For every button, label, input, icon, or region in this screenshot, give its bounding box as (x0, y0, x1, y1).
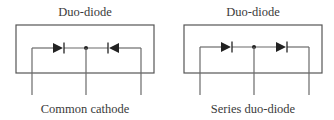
panel-title: Duo-diode (226, 5, 280, 19)
diode-icon (276, 42, 287, 53)
diode-icon (108, 43, 119, 54)
panel-title: Duo-diode (58, 5, 112, 19)
diode-icon (53, 43, 64, 54)
panel-caption: Series duo-diode (211, 102, 296, 116)
panel-caption: Common cathode (41, 102, 130, 116)
package-outline (184, 25, 322, 73)
diode-icon (221, 42, 232, 53)
panel-common-cathode: Duo-diode Common cathode (16, 5, 154, 116)
duo-diode-diagram: Duo-diode Common cathode Duo-diode (0, 0, 334, 120)
panel-series-duo-diode: Duo-diode Series duo-diode (184, 5, 322, 116)
